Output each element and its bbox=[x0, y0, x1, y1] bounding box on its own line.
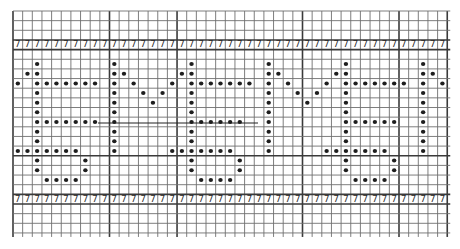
stitch-dot bbox=[199, 178, 203, 182]
stitch-dot bbox=[112, 130, 116, 134]
stitch-chart: 7777777777777777777777777777777777777777… bbox=[0, 0, 460, 249]
seven-symbol: 7 bbox=[34, 194, 39, 204]
seven-symbol: 7 bbox=[25, 194, 30, 204]
stitch-dot bbox=[228, 81, 232, 85]
stitch-dot bbox=[35, 91, 39, 95]
stitch-dot bbox=[392, 120, 396, 124]
stitch-dot bbox=[25, 149, 29, 153]
stitch-dot bbox=[392, 159, 396, 163]
stitch-dot bbox=[45, 120, 49, 124]
stitch-dot bbox=[238, 168, 242, 172]
stitch-dot bbox=[218, 149, 222, 153]
stitch-dot bbox=[35, 168, 39, 172]
stitch-dot bbox=[267, 72, 271, 76]
stitch-dot bbox=[199, 149, 203, 153]
stitch-dot bbox=[295, 91, 299, 95]
stitch-dot bbox=[64, 81, 68, 85]
stitch-dot bbox=[112, 149, 116, 153]
seven-symbol: 7 bbox=[92, 39, 97, 49]
stitch-dot bbox=[228, 120, 232, 124]
stitch-dot bbox=[238, 120, 242, 124]
seven-symbol: 7 bbox=[227, 39, 232, 49]
stitch-dot bbox=[64, 120, 68, 124]
stitch-dot bbox=[189, 81, 193, 85]
seven-symbol: 7 bbox=[170, 194, 175, 204]
stitch-dot bbox=[93, 120, 97, 124]
stitch-dot bbox=[421, 101, 425, 105]
seven-symbol: 7 bbox=[208, 39, 213, 49]
stitch-dot bbox=[112, 120, 116, 124]
stitch-dot bbox=[267, 62, 271, 66]
stitch-dot bbox=[344, 81, 348, 85]
seven-symbol: 7 bbox=[179, 39, 184, 49]
stitch-dot bbox=[334, 72, 338, 76]
stitch-dot bbox=[286, 81, 290, 85]
stitch-dot bbox=[112, 62, 116, 66]
stitch-dot bbox=[25, 72, 29, 76]
seven-symbol: 7 bbox=[295, 39, 300, 49]
seven-symbol: 7 bbox=[25, 39, 30, 49]
stitch-dot bbox=[267, 149, 271, 153]
stitch-dot bbox=[83, 159, 87, 163]
stitch-dot bbox=[344, 72, 348, 76]
stitch-dot bbox=[344, 91, 348, 95]
stitch-dot bbox=[16, 149, 20, 153]
seven-symbol: 7 bbox=[363, 39, 368, 49]
seven-symbol: 7 bbox=[160, 39, 165, 49]
stitch-dot bbox=[64, 178, 68, 182]
seven-symbol: 7 bbox=[83, 194, 88, 204]
stitch-dot bbox=[189, 149, 193, 153]
seven-symbol: 7 bbox=[314, 194, 319, 204]
stitch-dot bbox=[353, 120, 357, 124]
stitch-dot bbox=[189, 120, 193, 124]
stitch-dot bbox=[334, 149, 338, 153]
seven-symbol: 7 bbox=[218, 194, 223, 204]
stitch-dot bbox=[35, 130, 39, 134]
stitch-dot bbox=[363, 81, 367, 85]
seven-symbol: 7 bbox=[227, 194, 232, 204]
stitch-dot bbox=[35, 149, 39, 153]
stitch-dot bbox=[112, 91, 116, 95]
stitch-dot bbox=[392, 168, 396, 172]
stitch-dot bbox=[382, 178, 386, 182]
seven-symbol: 7 bbox=[430, 194, 435, 204]
stitch-dot bbox=[382, 120, 386, 124]
seven-symbol: 7 bbox=[372, 39, 377, 49]
seven-symbol: 7 bbox=[237, 194, 242, 204]
stitch-dot bbox=[373, 120, 377, 124]
stitch-dot bbox=[189, 139, 193, 143]
stitch-dot bbox=[267, 101, 271, 105]
stitch-dot bbox=[353, 149, 357, 153]
seven-symbol: 7 bbox=[266, 194, 271, 204]
stitch-dot bbox=[267, 120, 271, 124]
seven-symbol: 7 bbox=[411, 39, 416, 49]
stitch-dot bbox=[363, 149, 367, 153]
stitch-dot bbox=[35, 62, 39, 66]
stitch-dot bbox=[180, 72, 184, 76]
stitch-dot bbox=[218, 81, 222, 85]
stitch-dot bbox=[74, 178, 78, 182]
seven-symbol: 7 bbox=[372, 194, 377, 204]
stitch-dot bbox=[141, 91, 145, 95]
stitch-dot bbox=[421, 62, 425, 66]
seven-symbol: 7 bbox=[353, 194, 358, 204]
stitch-dot bbox=[189, 101, 193, 105]
stitch-dot bbox=[373, 81, 377, 85]
stitch-dot bbox=[344, 139, 348, 143]
stitch-dot bbox=[209, 149, 213, 153]
stitch-dot bbox=[74, 81, 78, 85]
seven-symbol: 7 bbox=[131, 194, 136, 204]
seven-symbol: 7 bbox=[353, 39, 358, 49]
seven-symbol: 7 bbox=[305, 194, 310, 204]
stitch-dot bbox=[180, 149, 184, 153]
seven-symbol: 7 bbox=[83, 39, 88, 49]
seven-symbol: 7 bbox=[256, 194, 261, 204]
seven-symbol: 7 bbox=[121, 39, 126, 49]
stitch-dot bbox=[363, 178, 367, 182]
stitch-dot bbox=[276, 72, 280, 76]
seven-symbol: 7 bbox=[44, 194, 49, 204]
stitch-dot bbox=[83, 120, 87, 124]
stitch-dot bbox=[344, 110, 348, 114]
seven-symbol: 7 bbox=[44, 39, 49, 49]
seven-symbol: 7 bbox=[420, 39, 425, 49]
